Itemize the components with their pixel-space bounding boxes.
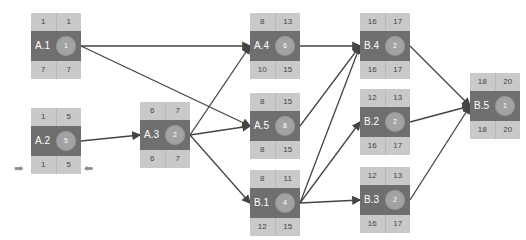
early-start: 12 bbox=[360, 89, 386, 107]
edge-arrow bbox=[300, 46, 360, 126]
duration-circle-icon: 2 bbox=[385, 112, 405, 132]
late-start: 8 bbox=[250, 141, 276, 159]
node-a5[interactable]: 815 A.58 815 bbox=[250, 93, 300, 159]
edge-arrow bbox=[410, 46, 470, 106]
early-finish: 13 bbox=[386, 89, 411, 107]
duration-circle-icon: 2 bbox=[165, 125, 185, 145]
late-finish: 17 bbox=[386, 215, 411, 233]
node-a1[interactable]: 11 A.11 77 bbox=[31, 13, 81, 79]
node-b1[interactable]: 811 B.14 1215 bbox=[250, 170, 300, 236]
node-label: A.4 bbox=[254, 31, 269, 61]
node-label: B.2 bbox=[364, 107, 379, 137]
late-finish: 17 bbox=[386, 137, 411, 155]
late-finish: 15 bbox=[276, 61, 301, 79]
critical-marker-left-arrow-icon: ➡ bbox=[14, 162, 23, 174]
late-start: 16 bbox=[360, 137, 386, 155]
late-finish: 5 bbox=[57, 156, 82, 174]
early-finish: 13 bbox=[276, 13, 301, 31]
edge-arrow bbox=[81, 135, 140, 141]
node-label: A.1 bbox=[35, 31, 50, 61]
late-start: 12 bbox=[250, 218, 276, 236]
node-a4[interactable]: 813 A.46 1015 bbox=[250, 13, 300, 79]
early-start: 16 bbox=[360, 13, 386, 31]
early-finish: 17 bbox=[386, 13, 411, 31]
late-finish: 20 bbox=[496, 121, 521, 139]
late-start: 16 bbox=[360, 215, 386, 233]
node-label: B.5 bbox=[474, 91, 489, 121]
node-label: A.2 bbox=[35, 126, 50, 156]
edge-arrow bbox=[190, 135, 250, 203]
late-start: 16 bbox=[360, 61, 386, 79]
node-a2[interactable]: 15 A.25 15 bbox=[31, 108, 81, 174]
early-start: 1 bbox=[31, 108, 57, 126]
node-label: A.3 bbox=[144, 120, 159, 150]
edge-arrow bbox=[300, 200, 360, 203]
duration-circle-icon: 1 bbox=[56, 36, 76, 56]
late-finish: 15 bbox=[276, 218, 301, 236]
node-a3[interactable]: 67 A.32 67 bbox=[140, 102, 190, 168]
late-start: 7 bbox=[31, 61, 57, 79]
late-start: 10 bbox=[250, 61, 276, 79]
late-start: 6 bbox=[140, 150, 166, 168]
node-b5[interactable]: 1820 B.51 1820 bbox=[470, 73, 520, 139]
late-start: 18 bbox=[470, 121, 496, 139]
early-finish: 7 bbox=[166, 102, 191, 120]
early-start: 8 bbox=[250, 170, 276, 188]
early-start: 18 bbox=[470, 73, 496, 91]
node-b3[interactable]: 1213 B.32 1617 bbox=[360, 167, 410, 233]
duration-circle-icon: 6 bbox=[275, 36, 295, 56]
early-start: 8 bbox=[250, 13, 276, 31]
edge-arrow bbox=[300, 122, 360, 203]
node-label: A.5 bbox=[254, 111, 269, 141]
edge-arrow bbox=[190, 126, 250, 135]
duration-circle-icon: 5 bbox=[56, 131, 76, 151]
duration-circle-icon: 2 bbox=[385, 190, 405, 210]
early-finish: 15 bbox=[276, 93, 301, 111]
late-finish: 17 bbox=[386, 61, 411, 79]
late-finish: 7 bbox=[57, 61, 82, 79]
early-start: 12 bbox=[360, 167, 386, 185]
late-finish: 7 bbox=[166, 150, 191, 168]
early-finish: 20 bbox=[496, 73, 521, 91]
early-start: 6 bbox=[140, 102, 166, 120]
edge-arrow bbox=[300, 46, 360, 203]
early-start: 1 bbox=[31, 13, 57, 31]
late-finish: 15 bbox=[276, 141, 301, 159]
node-label: B.4 bbox=[364, 31, 379, 61]
node-label: B.3 bbox=[364, 185, 379, 215]
duration-circle-icon: 8 bbox=[275, 116, 295, 136]
node-b4[interactable]: 1617 B.42 1617 bbox=[360, 13, 410, 79]
early-finish: 5 bbox=[57, 108, 82, 126]
late-start: 1 bbox=[31, 156, 57, 174]
node-b2[interactable]: 1213 B.22 1617 bbox=[360, 89, 410, 155]
early-finish: 1 bbox=[57, 13, 82, 31]
node-label: B.1 bbox=[254, 188, 269, 218]
early-finish: 13 bbox=[386, 167, 411, 185]
duration-circle-icon: 4 bbox=[275, 193, 295, 213]
duration-circle-icon: 1 bbox=[495, 96, 515, 116]
early-start: 8 bbox=[250, 93, 276, 111]
duration-circle-icon: 2 bbox=[385, 36, 405, 56]
critical-marker-right-arrow-icon: ⬅ bbox=[84, 162, 93, 174]
early-finish: 11 bbox=[276, 170, 301, 188]
